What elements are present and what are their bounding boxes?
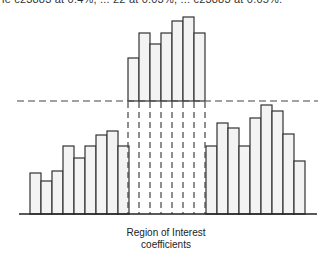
caption-line-1: Region of Interest [1,227,330,239]
bar [161,33,172,101]
bar [52,171,63,214]
bar [41,181,52,214]
bar [172,21,183,101]
bar [85,146,96,214]
bar [96,135,107,214]
bar [239,146,250,214]
roi-shift-diagram [0,0,330,258]
bar [183,17,194,101]
bar [107,131,118,214]
bar [63,146,74,214]
bar [128,58,139,101]
bar [206,146,217,214]
bar [150,44,161,101]
bar [194,33,205,101]
bar [118,146,129,214]
bar [217,123,228,214]
bar [294,161,305,214]
caption-line-2: coefficients [1,239,330,251]
bars-group [30,17,305,214]
bar [261,105,272,214]
bar [283,134,294,214]
bar [30,173,41,214]
bar [272,111,283,214]
bar [74,158,85,214]
bar [250,118,261,214]
bar [228,128,239,214]
bar [139,33,150,101]
